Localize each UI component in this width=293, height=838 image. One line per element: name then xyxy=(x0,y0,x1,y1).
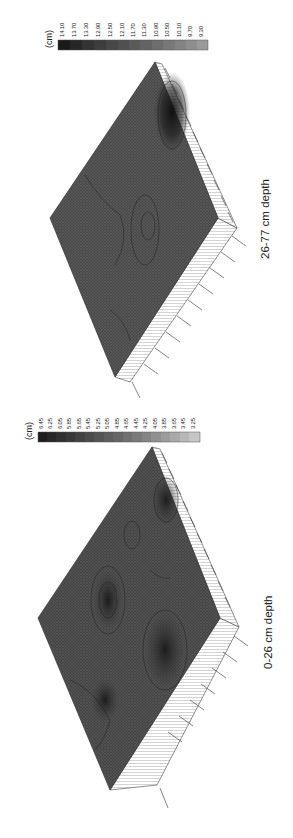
colorbar-tick: 3.85 xyxy=(161,418,167,429)
colorbar-tick: 5.25 xyxy=(95,418,101,429)
colorbar-26-77cm xyxy=(58,40,208,50)
colorbar-unit: (cm) xyxy=(24,422,34,440)
surface-mesh xyxy=(50,62,218,377)
colorbar-tick: 13.70 xyxy=(71,23,77,37)
colorbar-tick: 5.45 xyxy=(85,418,91,429)
colorbar-0-26cm xyxy=(38,432,200,442)
colorbar-tick: 9.30 xyxy=(198,26,204,37)
colorbar-tick: 4.25 xyxy=(142,418,148,429)
colorbar-tick: 6.45 xyxy=(38,418,44,429)
surface-mesh xyxy=(38,447,220,790)
colorbar-tick: 6.25 xyxy=(47,418,53,429)
surface-plot-0-26cm xyxy=(0,400,293,838)
colorbar-tick: 4.45 xyxy=(133,418,139,429)
colorbar-tick: 5.05 xyxy=(104,418,110,429)
colorbar-tick: 4.05 xyxy=(152,418,158,429)
chart-panel-26-77cm: (cm) 14.10 13.70 13.30 12.90 12.50 12.10… xyxy=(0,0,293,420)
colorbar-tick: 11.30 xyxy=(141,23,147,37)
colorbar-tick: 12.90 xyxy=(95,23,101,37)
colorbar-tick: 5.65 xyxy=(76,418,82,429)
colorbar-tick: 3.25 xyxy=(190,418,196,429)
colorbar-tick: 12.10 xyxy=(119,23,125,37)
colorbar-tick: 3.65 xyxy=(171,418,177,429)
colorbar-tick: 4.65 xyxy=(123,418,129,429)
colorbar-tick: 13.30 xyxy=(83,23,89,37)
colorbar-tick: 5.85 xyxy=(66,418,72,429)
colorbar-tick: 10.50 xyxy=(164,23,170,37)
chart-title: 26-77 cm depth xyxy=(259,179,271,259)
colorbar-tick: 10.10 xyxy=(176,23,182,37)
chart-panel-0-26cm: (cm) 6.45 6.25 6.05 5.85 5.65 5.45 5.25 … xyxy=(0,400,293,838)
colorbar-tick: 11.70 xyxy=(130,23,136,37)
colorbar-tick: 4.85 xyxy=(114,418,120,429)
surface-plot-26-77cm xyxy=(0,0,293,420)
colorbar-tick: 10.90 xyxy=(153,23,159,37)
chart-title: 0-26 cm depth xyxy=(262,595,274,669)
colorbar-tick: 6.05 xyxy=(57,418,63,429)
colorbar-unit: (cm) xyxy=(44,30,54,48)
colorbar-tick: 9.70 xyxy=(187,26,193,37)
colorbar-tick: 14.10 xyxy=(59,23,65,37)
colorbar-tick: 12.50 xyxy=(107,23,113,37)
colorbar-tick: 3.45 xyxy=(180,418,186,429)
